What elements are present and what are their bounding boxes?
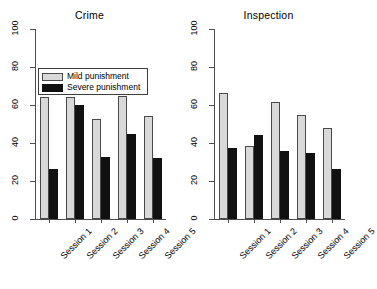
x-axis-tick: [75, 219, 76, 223]
y-axis-tick: [209, 105, 214, 106]
y-axis-tick: [209, 29, 214, 30]
bar-severe: [101, 157, 110, 219]
bar-mild: [271, 102, 280, 219]
x-axis-tick: [153, 219, 154, 223]
bar-severe: [280, 151, 289, 219]
y-axis-tick-label: 20: [183, 175, 205, 187]
panel-title-inspection: Inspection: [179, 9, 358, 21]
y-axis-tick: [30, 67, 35, 68]
bar-mild: [66, 97, 75, 219]
bar-severe: [228, 148, 237, 219]
y-axis-tick-label: 80: [4, 61, 26, 73]
bar-mild: [323, 128, 332, 219]
bar-mild: [297, 115, 306, 219]
y-axis-tick: [209, 181, 214, 182]
y-axis-tick-label: 40: [183, 137, 205, 149]
x-axis-tick: [280, 219, 281, 223]
y-axis-tick-label: 100: [183, 23, 205, 35]
bars-crime: [36, 29, 166, 219]
legend-entry-severe: Severe punishment: [42, 82, 140, 93]
panel-title-crime: Crime: [0, 9, 179, 21]
chart-legend: Mild punishment Severe punishment: [38, 68, 148, 95]
bar-severe: [75, 105, 84, 219]
y-axis-tick: [30, 181, 35, 182]
x-axis-tick: [332, 219, 333, 223]
bar-severe: [127, 134, 136, 219]
legend-entry-mild: Mild punishment: [42, 71, 129, 82]
bar-mild: [118, 96, 127, 219]
legend-swatch-severe: [42, 84, 63, 92]
bar-severe: [153, 158, 162, 219]
x-axis-tick: [228, 219, 229, 223]
y-axis-tick-label: 20: [4, 175, 26, 187]
bars-inspection: [215, 29, 345, 219]
y-axis-tick-label: 0: [183, 213, 205, 225]
chart-panel-crime: Crime Mild punishment Severe punishment …: [0, 0, 179, 289]
x-axis-tick: [306, 219, 307, 223]
legend-label-mild: Mild punishment: [67, 72, 129, 81]
y-axis-tick: [30, 219, 35, 220]
bar-mild: [245, 146, 254, 219]
y-axis-tick-label: 80: [183, 61, 205, 73]
y-axis-tick-label: 60: [183, 99, 205, 111]
bar-severe: [332, 169, 341, 219]
legend-label-severe: Severe punishment: [67, 83, 140, 92]
x-axis-tick: [254, 219, 255, 223]
bar-severe: [49, 169, 58, 219]
y-axis-tick-label: 100: [4, 23, 26, 35]
y-axis-tick: [30, 105, 35, 106]
bar-mild: [40, 97, 49, 219]
y-axis-tick: [30, 143, 35, 144]
x-axis-tick: [101, 219, 102, 223]
y-axis-tick: [209, 143, 214, 144]
bar-mild: [144, 116, 153, 219]
y-axis-tick: [30, 29, 35, 30]
y-axis-tick: [209, 219, 214, 220]
legend-swatch-mild: [42, 73, 63, 81]
y-axis-tick-label: 60: [4, 99, 26, 111]
y-axis-tick-label: 40: [4, 137, 26, 149]
y-axis-tick-label: 0: [4, 213, 26, 225]
x-axis-tick: [49, 219, 50, 223]
bar-severe: [254, 135, 263, 219]
y-axis-tick: [209, 67, 214, 68]
x-axis-tick: [127, 219, 128, 223]
bar-severe: [306, 153, 315, 219]
chart-panel-inspection: Inspection 020406080100Session 1Session …: [179, 0, 358, 289]
bar-mild: [219, 93, 228, 219]
bar-mild: [92, 119, 101, 219]
